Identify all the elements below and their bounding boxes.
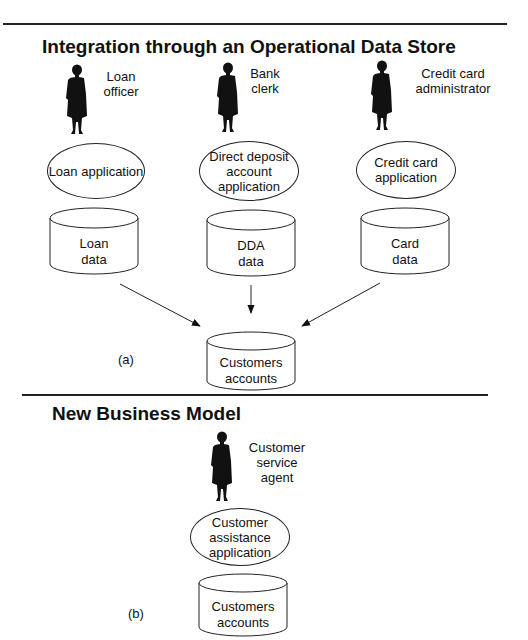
part-label-a: (a)	[118, 352, 134, 367]
role-label-customer-service-agent: Customer service agent	[242, 440, 312, 485]
arrow-card-to-customers	[302, 283, 380, 326]
app-customer-assistance-application: Customer assistance application	[190, 508, 290, 566]
datastore-customers-accounts-a: Customers accounts	[206, 330, 296, 392]
middle-divider	[22, 394, 488, 396]
arrow-loan-to-customers	[120, 284, 200, 326]
person-icon	[207, 429, 237, 505]
part-label-b: (b)	[128, 606, 144, 621]
section-b-title: New Business Model	[52, 403, 241, 425]
datastore-customers-accounts-b: Customers accounts	[198, 572, 288, 638]
